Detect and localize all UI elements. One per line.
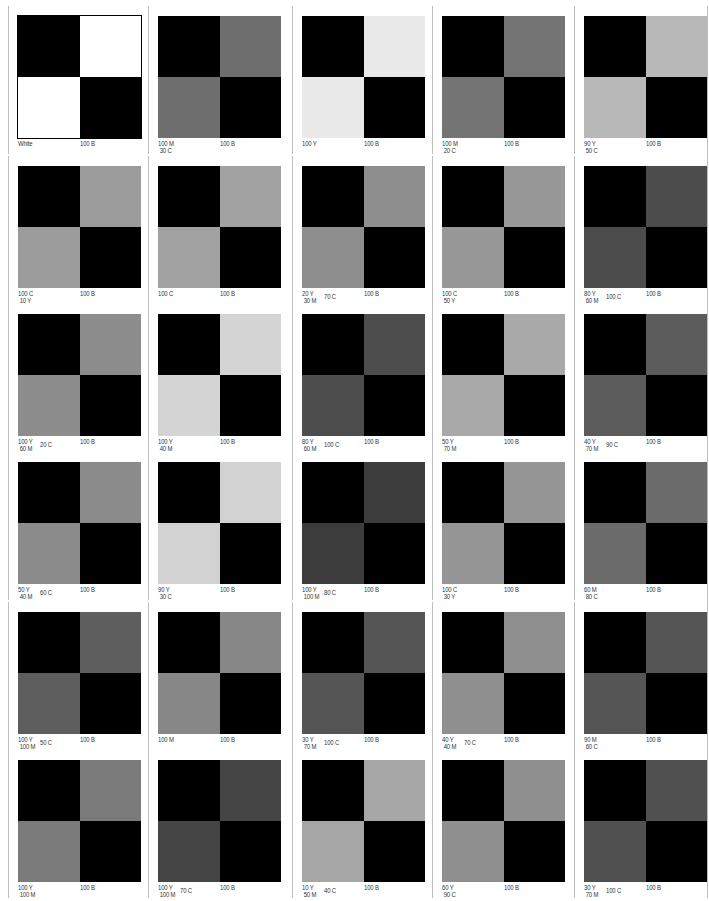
color-square (584, 821, 646, 882)
black-label: 100 B (646, 586, 661, 593)
column-divider (148, 304, 149, 452)
black-square (364, 227, 426, 288)
swatch-tile: 100 Y100 M50 C100 B (8, 602, 146, 750)
ink-mix-extra-label: 20 C (40, 441, 52, 448)
swatch-tile: 90 Y30 C100 B (148, 452, 286, 600)
ink-mix-label: 100 Y40 M (158, 438, 173, 452)
black-square (646, 227, 708, 288)
black-label: 100 B (364, 586, 379, 593)
column-divider (574, 6, 575, 154)
black-label: 100 B (80, 884, 95, 891)
black-label: 100 B (646, 884, 661, 891)
black-square (18, 314, 80, 375)
black-square (442, 612, 504, 673)
ink-mix-line: 40 M (18, 593, 32, 600)
ink-mix-line: 100 Y (18, 736, 35, 743)
ink-mix-line: 100 M (18, 743, 35, 750)
color-square (584, 673, 646, 734)
color-square (442, 673, 504, 734)
black-square (584, 166, 646, 227)
checkerboard-swatch (18, 314, 141, 436)
ink-mix-extra-label: 90 C (606, 441, 618, 448)
color-square (302, 523, 364, 584)
color-square (442, 375, 504, 436)
black-label: 100 B (364, 736, 379, 743)
column-divider (574, 602, 575, 750)
swatch-tile: 100 C30 Y100 B (432, 452, 570, 600)
black-square (220, 523, 282, 584)
color-square (18, 821, 80, 882)
checkerboard-swatch (18, 612, 141, 734)
ink-mix-line: 60 M (302, 445, 316, 452)
ink-mix-label: 80 Y60 M (302, 438, 316, 452)
column-divider (707, 6, 708, 898)
swatch-tile: 100 M20 C100 B (432, 6, 570, 154)
ink-mix-line: 30 M (302, 297, 316, 304)
black-square (504, 821, 566, 882)
black-square (18, 612, 80, 673)
column-divider (292, 602, 293, 750)
black-label: 100 B (504, 586, 519, 593)
checkerboard-swatch (584, 166, 707, 288)
black-square (504, 227, 566, 288)
checkerboard-swatch (302, 314, 425, 436)
color-square (364, 760, 426, 821)
swatch-tile: 100 M100 B (148, 602, 286, 750)
black-square (80, 227, 142, 288)
black-square (364, 77, 426, 138)
column-divider (8, 602, 9, 750)
swatch-tile: 60 Y90 C100 B (432, 750, 570, 898)
swatch-tile: 100 Y40 M100 B (148, 304, 286, 452)
checkerboard-swatch (302, 166, 425, 288)
checkerboard-swatch (18, 760, 141, 882)
black-square (364, 673, 426, 734)
ink-mix-label: 90 M60 C (584, 736, 598, 750)
color-square (504, 760, 566, 821)
color-square (158, 375, 220, 436)
ink-mix-extra-label: 50 C (40, 739, 52, 746)
color-square (220, 314, 282, 375)
column-divider (574, 452, 575, 600)
checkerboard-swatch (584, 760, 707, 882)
black-label: 100 B (504, 438, 519, 445)
ink-mix-label: White (18, 140, 32, 147)
swatch-tile: 100 C100 B (148, 156, 286, 304)
black-square (302, 612, 364, 673)
ink-mix-label: 100 C (158, 290, 173, 297)
black-square (80, 77, 142, 138)
ink-mix-label: 30 Y70 M (302, 736, 316, 750)
ink-mix-line: 90 C (442, 891, 456, 898)
column-divider (574, 156, 575, 304)
black-square (80, 375, 142, 436)
checkerboard-swatch (584, 16, 707, 138)
ink-mix-line: 100 C (158, 290, 173, 297)
checkerboard-swatch (442, 462, 565, 584)
checkerboard-swatch (302, 16, 425, 138)
ink-mix-line: 70 M (302, 743, 316, 750)
ink-mix-label: 60 Y90 C (442, 884, 456, 898)
color-square (158, 77, 220, 138)
ink-mix-label: 100 C30 Y (442, 586, 457, 600)
ink-mix-line: 60 M (584, 586, 598, 593)
checkerboard-swatch (584, 612, 707, 734)
ink-mix-line: 30 C (158, 593, 172, 600)
ink-mix-line: 20 Y (302, 290, 316, 297)
black-square (220, 375, 282, 436)
color-square (158, 673, 220, 734)
swatch-tile: 80 Y60 M100 C100 B (292, 304, 430, 452)
black-square (646, 821, 708, 882)
ink-mix-line: 80 C (584, 593, 598, 600)
black-label: 100 B (80, 586, 95, 593)
column-divider (292, 452, 293, 600)
column-divider (148, 602, 149, 750)
black-square (302, 16, 364, 77)
black-square (646, 673, 708, 734)
black-square (504, 375, 566, 436)
column-divider (432, 750, 433, 898)
checkerboard-swatch (584, 314, 707, 436)
ink-mix-extra-label: 70 C (324, 293, 336, 300)
black-label: 100 B (646, 736, 661, 743)
black-label: 100 B (364, 290, 379, 297)
color-square (220, 462, 282, 523)
ink-mix-line: 90 Y (584, 140, 598, 147)
